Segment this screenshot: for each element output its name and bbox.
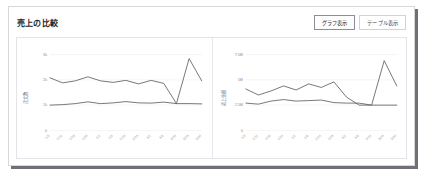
x-axis-tick-label: 3/23 — [182, 134, 190, 141]
x-axis-tick-label: 2/23 — [327, 134, 335, 141]
series-line — [50, 59, 202, 104]
x-axis-tick-label: 3/23 — [377, 134, 385, 141]
x-axis-tick-label: 1/12 — [56, 134, 64, 141]
x-axis-tick-label: 3/9 — [353, 134, 359, 140]
x-axis-tick-label: 3/30 — [389, 134, 397, 141]
x-axis-tick-label: 1/26 — [81, 134, 89, 141]
x-axis-tick-label: 3/16 — [364, 134, 372, 141]
y-axis-tick-label: 2k — [43, 78, 47, 82]
series-line — [50, 102, 202, 106]
x-axis-tick-label: 1/19 — [264, 134, 272, 141]
y-axis-tick-label: 1k — [43, 103, 47, 107]
x-axis-tick-label: 2/23 — [132, 134, 140, 141]
chart-panel-revenue: 売上金額 02.5M5M7.5M1/51/121/191/262/22/92/1… — [212, 38, 407, 158]
y-axis-tick-label: 0 — [45, 129, 47, 133]
x-axis-tick-label: 2/16 — [314, 134, 322, 141]
view-mode-toggle-group: グラフ表示 テーブル表示 — [314, 15, 406, 30]
x-axis-tick-label: 3/2 — [340, 134, 346, 140]
x-axis-tick-label: 3/9 — [158, 134, 164, 140]
x-axis-tick-label: 2/2 — [95, 134, 101, 140]
card-header: 売上の比較 グラフ表示 テーブル表示 — [9, 7, 414, 37]
y-axis-tick-label: 0 — [240, 129, 242, 133]
x-axis-tick-label: 2/2 — [290, 134, 296, 140]
series-line — [245, 61, 396, 105]
x-axis-tick-label: 1/5 — [44, 134, 50, 140]
plot-area-orders: 01k2k3k1/51/121/191/262/22/92/162/233/23… — [25, 44, 208, 158]
y-axis-tick-label: 5M — [237, 78, 242, 82]
line-chart-orders: 01k2k3k1/51/121/191/262/22/92/162/233/23… — [25, 44, 208, 158]
tab-table-view[interactable]: テーブル表示 — [359, 15, 406, 30]
x-axis-tick-label: 2/9 — [108, 134, 114, 140]
plot-area-revenue: 02.5M5M7.5M1/51/121/191/262/22/92/162/23… — [221, 44, 403, 158]
charts-container: 注文数 01k2k3k1/51/121/191/262/22/92/162/23… — [16, 37, 407, 159]
page-title: 売上の比較 — [17, 17, 58, 28]
sales-comparison-card: 売上の比較 グラフ表示 テーブル表示 注文数 01k2k3k1/51/121/1… — [8, 6, 415, 166]
x-axis-tick-label: 3/2 — [146, 134, 152, 140]
x-axis-tick-label: 3/16 — [170, 134, 178, 141]
x-axis-tick-label: 1/12 — [251, 134, 259, 141]
x-axis-tick-label: 2/9 — [303, 134, 309, 140]
y-axis-tick-label: 7.5M — [234, 53, 242, 57]
y-axis-tick-label: 3k — [43, 53, 47, 57]
y-axis-tick-label: 2.5M — [234, 103, 242, 107]
tab-graph-view[interactable]: グラフ表示 — [314, 15, 356, 30]
x-axis-tick-label: 3/30 — [195, 134, 203, 141]
chart-panel-orders: 注文数 01k2k3k1/51/121/191/262/22/92/162/23… — [17, 38, 212, 158]
x-axis-tick-label: 2/16 — [119, 134, 127, 141]
x-axis-tick-label: 1/26 — [276, 134, 284, 141]
x-axis-tick-label: 1/19 — [68, 134, 76, 141]
line-chart-revenue: 02.5M5M7.5M1/51/121/191/262/22/92/162/23… — [221, 44, 403, 158]
x-axis-tick-label: 1/5 — [240, 134, 246, 140]
